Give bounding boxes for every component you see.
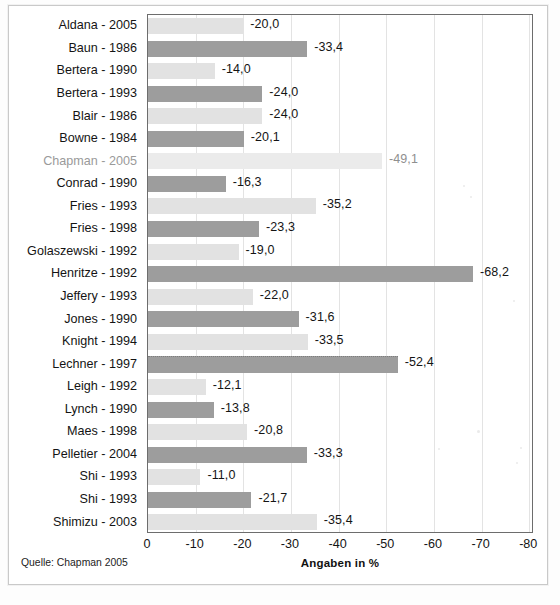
category-label: Blair - 1986 [5,104,137,127]
bar-value-label: -33,4 [314,40,343,54]
category-label: Aldana - 2005 [5,14,137,37]
bar-value-label: -11,0 [207,468,235,482]
category-label: Henritze - 1992 [5,262,137,285]
category-label: Golaszewski - 1992 [5,240,137,263]
category-label: Shi - 1993 [5,465,137,488]
scan-speckle [477,430,480,433]
scan-speckle [470,196,472,198]
bar-row: -16,3 [148,173,532,196]
bar [148,311,299,327]
bar-row: -33,4 [148,38,532,61]
bar-row: -24,0 [148,83,532,106]
category-label: Chapman - 2005 [5,149,137,172]
bar [148,379,206,395]
scan-speckle [438,448,440,450]
bar [148,131,244,147]
bar-row: -49,1 [148,150,532,173]
bar [148,514,317,530]
scan-speckle [513,300,515,302]
bar-value-label: -23,3 [266,220,295,234]
bar-row: -14,0 [148,60,532,83]
bar-row: -13,8 [148,399,532,422]
bar-row: -52,4 [148,353,532,376]
bar [148,176,226,192]
x-tick-label: -80 [519,537,537,551]
bar [148,108,262,124]
bar [148,86,262,102]
category-label: Fries - 1998 [5,217,137,240]
bar [148,266,473,282]
category-label: Fries - 1993 [5,194,137,217]
source-note: Quelle: Chapman 2005 [21,557,128,568]
bar-row: -35,2 [148,195,532,218]
category-label: Jeffery - 1993 [5,285,137,308]
bar-value-label: -21,7 [258,491,287,505]
bar-row: -21,7 [148,489,532,512]
x-tick-label: -70 [471,537,489,551]
scan-speckle [520,447,522,449]
bar-row: -20,0 [148,15,532,38]
bar-value-label: -31,6 [306,310,335,324]
bar [148,153,382,169]
bar-value-label: -35,4 [324,513,353,527]
bar-value-label: -33,3 [314,446,343,460]
bar-row: -19,0 [148,241,532,264]
bar-value-label: -24,0 [269,85,298,99]
bar-row: -23,3 [148,218,532,241]
chart-card: Aldana - 2005Baun - 1986Bertera - 1990Be… [8,5,548,585]
bar-value-label: -16,3 [233,175,262,189]
category-label: Bertera - 1990 [5,59,137,82]
plot-area: -20,0-33,4-14,0-24,0-24,0-20,1-49,1-16,3… [147,14,533,533]
bar-value-label: -14,0 [222,62,251,76]
category-label: Leigh - 1992 [5,375,137,398]
bar-value-label: -20,1 [251,130,280,144]
bar-row: -24,0 [148,105,532,128]
bar [148,244,239,260]
x-tick-label: -30 [281,537,299,551]
category-label: Maes - 1998 [5,420,137,443]
category-label: Knight - 1994 [5,330,137,353]
bar [148,334,308,350]
bar-row: -20,1 [148,128,532,151]
bar-row: -20,8 [148,421,532,444]
x-tick-label: 0 [143,537,150,551]
bar-value-label: -49,1 [389,152,418,166]
bar-row: -12,1 [148,376,532,399]
bar-chart: Aldana - 2005Baun - 1986Bertera - 1990Be… [9,6,549,586]
screenshot-page: Aldana - 2005Baun - 1986Bertera - 1990Be… [0,0,560,605]
category-label: Baun - 1986 [5,37,137,60]
bar [148,41,307,57]
bar-value-label: -33,5 [315,333,344,347]
category-label: Pelletier - 2004 [5,443,137,466]
category-label: Shimizu - 2003 [5,510,137,533]
x-axis-title: Angaben in % [147,557,533,569]
scan-speckle [516,462,518,464]
bar-row: -31,6 [148,308,532,331]
bar [148,469,200,485]
x-tick-label: -50 [376,537,394,551]
bar-row: -22,0 [148,286,532,309]
bar-value-label: -35,2 [323,197,352,211]
bar [148,492,251,508]
bar-value-label: -13,8 [221,401,250,415]
category-label: Jones - 1990 [5,307,137,330]
bar-row: -11,0 [148,466,532,489]
bar-row: -33,3 [148,444,532,467]
bar-value-label: -24,0 [269,107,298,121]
bar-value-label: -22,0 [260,288,289,302]
bar-value-label: -68,2 [480,265,509,279]
category-label: Shi - 1993 [5,488,137,511]
bar [148,198,316,214]
bar-row: -33,5 [148,331,532,354]
bar-value-label: -19,0 [246,243,275,257]
category-label: Bowne - 1984 [5,127,137,150]
bar [148,424,247,440]
bar [148,221,259,237]
scan-speckle [463,185,465,187]
bar-value-label: -20,8 [254,423,283,437]
bar-rows: -20,0-33,4-14,0-24,0-24,0-20,1-49,1-16,3… [148,15,532,532]
bar-value-label: -52,4 [405,355,434,369]
bar [148,356,398,373]
bar-row: -68,2 [148,263,532,286]
bar [148,289,253,305]
